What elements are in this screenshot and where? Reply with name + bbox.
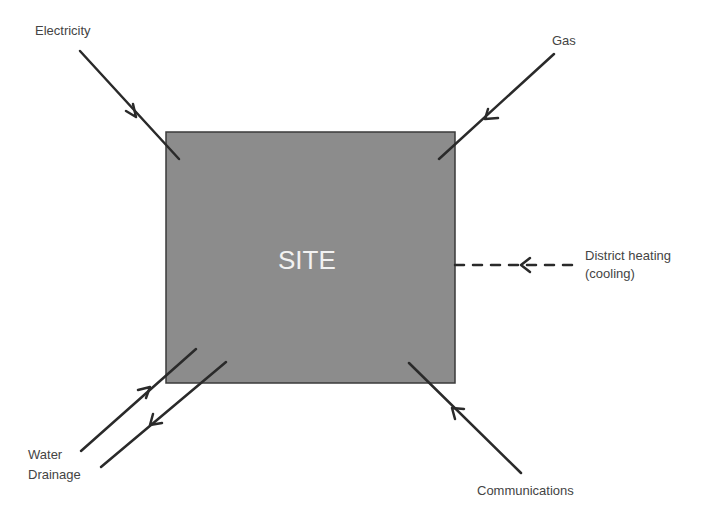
communications-label: Communications bbox=[477, 483, 574, 499]
electricity-label: Electricity bbox=[35, 23, 91, 39]
gas-label: Gas bbox=[552, 33, 576, 49]
district-heating-label-line2: (cooling) bbox=[585, 266, 671, 282]
communications-arrow bbox=[409, 363, 521, 473]
district-heating-arrow bbox=[455, 258, 578, 272]
drainage-label: Drainage bbox=[28, 467, 81, 483]
gas-arrow bbox=[439, 54, 554, 159]
district-heating-label: District heating (cooling) bbox=[585, 248, 671, 282]
electricity-arrow bbox=[80, 51, 179, 159]
water-label: Water bbox=[28, 447, 62, 463]
district-heating-label-line1: District heating bbox=[585, 248, 671, 264]
site-label: SITE bbox=[278, 245, 336, 275]
